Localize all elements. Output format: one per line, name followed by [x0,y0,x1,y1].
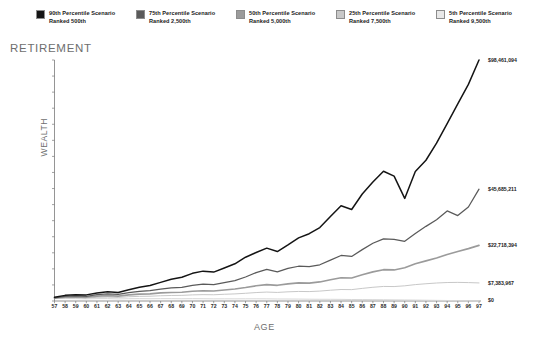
series-end-value-labels: $98,461,094$45,685,211$22,718,394$7,383,… [0,0,543,341]
series-end-label: $7,383,967 [488,280,514,286]
series-end-label: $45,685,211 [488,186,517,192]
series-end-label: $0 [488,297,494,303]
series-end-label: $98,461,094 [488,57,517,63]
series-end-label: $22,718,394 [488,242,517,248]
